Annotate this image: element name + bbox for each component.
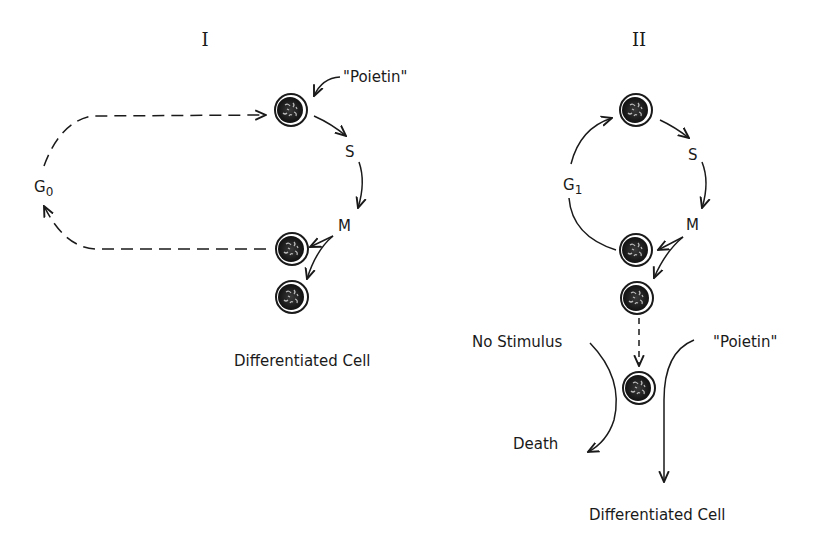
differentiated-cell-label: Differentiated Cell <box>234 352 371 370</box>
division-arrow <box>654 237 683 278</box>
cell-icon <box>621 282 653 314</box>
s-phase-label: S <box>688 146 698 164</box>
cell-cycle-diagram: I "Poietin" S M G0 Differentiated Cell I… <box>0 0 816 550</box>
s-phase-label: S <box>345 143 355 161</box>
return-to-g0-arrow <box>44 206 266 249</box>
differentiated-cell-label: Differentiated Cell <box>589 506 726 524</box>
no-stimulus-label: No Stimulus <box>472 333 563 351</box>
cell-icon <box>620 234 652 266</box>
cell-icon <box>620 94 652 126</box>
division-arrow <box>658 237 683 250</box>
cell-icon <box>623 372 655 404</box>
cell-icon <box>275 94 307 126</box>
poietin-arrow <box>314 77 340 96</box>
cell-icon <box>276 233 308 265</box>
g1-arrow <box>571 118 612 164</box>
panel-i: I "Poietin" S M G0 Differentiated Cell <box>34 29 407 370</box>
panel-ii-title: II <box>632 29 646 50</box>
panel-ii: II S M G1 No Stimulus Death "Poietin" Di… <box>472 29 777 524</box>
division-arrow <box>310 236 333 247</box>
differentiation-arrow <box>664 340 694 482</box>
panel-i-title: I <box>201 29 208 50</box>
m-phase-label: M <box>338 217 351 235</box>
g1-label: G1 <box>563 176 582 197</box>
poietin-label: "Poietin" <box>343 68 407 86</box>
m-phase-label: M <box>686 216 699 234</box>
g1-arc-lower <box>569 198 616 250</box>
arrow-to-m <box>702 162 706 208</box>
death-label: Death <box>513 435 558 453</box>
death-arrow <box>588 343 616 452</box>
arrow-to-s <box>660 120 689 138</box>
g0-reentry-arrow <box>44 115 266 166</box>
cell-icon <box>276 281 308 313</box>
poietin-label: "Poietin" <box>713 333 777 351</box>
arrow-to-m <box>358 162 362 208</box>
g0-label: G0 <box>34 178 53 199</box>
arrow-to-s <box>314 116 346 136</box>
